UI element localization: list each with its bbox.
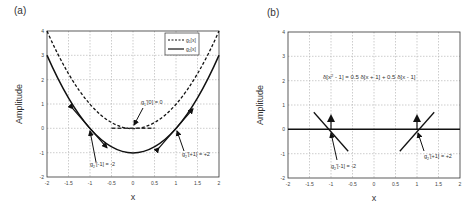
svg-text:-1: -1 — [281, 151, 286, 157]
panel-b-ylabel: Amplitude — [255, 85, 265, 125]
annotation-arrow-g1-zero — [134, 108, 143, 125]
svg-text:2: 2 — [41, 77, 44, 83]
svg-text:1.5: 1.5 — [194, 180, 201, 186]
panel-a-yticks: 432 10-1-2 — [40, 28, 45, 180]
equation-text: δ[x2 - 1] = 0.5 δ[x + 1] + 0.5 δ[x - 1] — [323, 73, 416, 81]
annotation-arrow-right — [418, 133, 424, 151]
svg-text:-2: -2 — [40, 174, 45, 180]
figure: (a) 432 10-1-2 -2-1.5-1 -0.500.5 11.52 — [0, 0, 476, 211]
svg-text:0: 0 — [132, 180, 135, 186]
svg-text:-0.5: -0.5 — [107, 180, 116, 186]
panel-a-xticks: -2-1.5-1 -0.500.5 11.52 — [45, 180, 221, 186]
panel-b-label: (b) — [267, 7, 279, 18]
svg-text:3: 3 — [41, 52, 44, 58]
annotation-right: g2'[+1] = +2 — [424, 153, 452, 161]
svg-text:-0.5: -0.5 — [348, 181, 357, 187]
svg-text:0: 0 — [282, 126, 285, 132]
annotation-g2-right: g2'[+1] = +2 — [182, 151, 210, 159]
svg-text:1: 1 — [175, 180, 178, 186]
svg-text:-2: -2 — [281, 175, 286, 181]
svg-text:2: 2 — [459, 181, 462, 187]
panel-a-xlabel: x — [131, 192, 136, 202]
svg-text:2: 2 — [282, 78, 285, 84]
panel-a-ylabel: Amplitude — [14, 84, 24, 124]
svg-text:0.5: 0.5 — [392, 181, 399, 187]
svg-text:-1.5: -1.5 — [64, 180, 73, 186]
svg-text:-1: -1 — [40, 150, 45, 156]
svg-text:-1: -1 — [329, 181, 334, 187]
svg-text:2: 2 — [218, 180, 221, 186]
svg-text:-2: -2 — [45, 180, 50, 186]
svg-text:-2: -2 — [286, 181, 291, 187]
svg-text:1: 1 — [416, 181, 419, 187]
svg-text:4: 4 — [282, 29, 285, 35]
svg-text:0: 0 — [41, 125, 44, 131]
svg-text:1.5: 1.5 — [435, 181, 442, 187]
annotation-left: g2'[-1] = -2 — [331, 163, 356, 171]
svg-text:4: 4 — [41, 28, 44, 34]
annotation-arrow-g2-right — [177, 131, 184, 151]
panel-a-label: (a) — [14, 5, 26, 16]
svg-text:-1: -1 — [88, 180, 93, 186]
panel-a: (a) 432 10-1-2 -2-1.5-1 -0.500.5 11.52 — [14, 5, 221, 202]
panel-b: (b) 432 10-1-2 -2-1.5-1 -0.500.5 11.52 x… — [255, 7, 462, 203]
panel-b-yticks: 432 10-1-2 — [281, 29, 286, 181]
svg-text:1: 1 — [41, 101, 44, 107]
svg-text:0.5: 0.5 — [151, 180, 158, 186]
svg-text:0: 0 — [373, 181, 376, 187]
svg-text:3: 3 — [282, 53, 285, 59]
annotation-arrow-g2-left — [90, 131, 96, 162]
svg-text:-1.5: -1.5 — [305, 181, 314, 187]
panel-a-legend: g1[x] g2[x] — [165, 33, 199, 55]
panel-b-xlabel: x — [372, 193, 377, 203]
panel-b-xticks: -2-1.5-1 -0.500.5 11.52 — [286, 181, 462, 187]
svg-text:1: 1 — [282, 102, 285, 108]
annotation-g1-zero: g1'[0] = 0 — [141, 99, 163, 107]
